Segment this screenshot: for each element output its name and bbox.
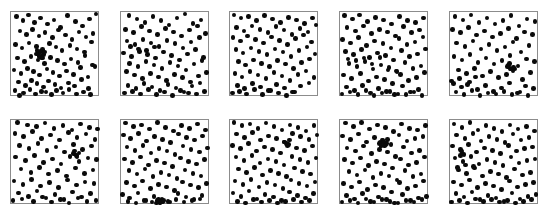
- data-point: [132, 73, 137, 78]
- scatter-panel-1[interactable]: [120, 11, 209, 96]
- data-point: [288, 123, 293, 128]
- data-point: [296, 125, 301, 130]
- data-point: [91, 168, 96, 173]
- data-point: [401, 24, 406, 29]
- data-point: [70, 37, 75, 42]
- data-point: [291, 197, 296, 202]
- data-point: [479, 47, 484, 52]
- data-point: [314, 23, 319, 28]
- data-point: [231, 191, 236, 196]
- data-point: [507, 61, 512, 66]
- data-point: [52, 126, 57, 131]
- data-point: [27, 41, 32, 46]
- data-point: [420, 93, 425, 98]
- data-point: [48, 55, 53, 60]
- data-point: [154, 92, 159, 97]
- data-point: [51, 70, 56, 75]
- data-point: [357, 13, 362, 18]
- data-point: [398, 72, 403, 77]
- data-point: [449, 200, 454, 205]
- data-point: [31, 69, 36, 74]
- data-point: [461, 18, 466, 23]
- data-point: [517, 161, 522, 166]
- data-point: [184, 195, 189, 200]
- scatter-panel-3[interactable]: [339, 11, 428, 96]
- data-point: [488, 69, 493, 74]
- data-point: [470, 190, 475, 195]
- data-point: [64, 69, 69, 74]
- scatter-panel-4[interactable]: [449, 11, 538, 96]
- data-point: [62, 150, 67, 155]
- data-point: [310, 16, 315, 21]
- data-point: [151, 14, 156, 19]
- data-point: [146, 163, 151, 168]
- data-point: [55, 58, 60, 63]
- data-point: [204, 70, 209, 75]
- data-point: [421, 179, 426, 184]
- scatter-panel-8[interactable]: [339, 119, 428, 204]
- data-point: [53, 192, 58, 197]
- data-point: [464, 171, 469, 176]
- data-point: [35, 189, 40, 194]
- data-point: [385, 30, 390, 35]
- data-point: [375, 123, 380, 128]
- data-point: [195, 122, 200, 127]
- data-point: [315, 133, 320, 138]
- data-point: [14, 14, 19, 19]
- data-point: [171, 129, 176, 134]
- data-point: [171, 30, 176, 35]
- data-point: [472, 66, 477, 71]
- data-point: [351, 124, 356, 129]
- data-point: [471, 164, 476, 169]
- data-point: [380, 91, 385, 96]
- data-point: [269, 35, 274, 40]
- data-point: [48, 133, 53, 138]
- scatter-panel-2[interactable]: [229, 11, 318, 96]
- data-point: [59, 86, 64, 91]
- data-point: [505, 198, 510, 203]
- data-point: [133, 148, 138, 153]
- data-point: [506, 26, 511, 31]
- data-point: [273, 183, 278, 188]
- data-point: [511, 65, 516, 70]
- data-point: [143, 167, 148, 172]
- data-point: [388, 89, 393, 94]
- data-point: [31, 199, 36, 204]
- data-point: [19, 71, 24, 76]
- data-point: [74, 183, 79, 188]
- data-point: [21, 91, 26, 96]
- data-point: [377, 147, 382, 152]
- data-point: [463, 163, 468, 168]
- scatter-panel-5[interactable]: [10, 119, 99, 204]
- data-point: [249, 177, 254, 182]
- scatter-panel-0[interactable]: [10, 11, 99, 96]
- data-point: [529, 197, 534, 202]
- scatter-panel-9[interactable]: [449, 119, 538, 204]
- data-point: [511, 40, 516, 45]
- data-point: [81, 90, 86, 95]
- scatter-panel-6[interactable]: [120, 119, 209, 204]
- data-point: [453, 156, 458, 161]
- data-point: [45, 148, 50, 153]
- data-point: [49, 92, 54, 97]
- data-point: [359, 47, 364, 52]
- data-point: [276, 91, 281, 96]
- data-point: [161, 50, 166, 55]
- data-point: [244, 92, 249, 97]
- data-point: [409, 30, 414, 35]
- data-point: [136, 191, 141, 196]
- data-point: [194, 92, 199, 97]
- data-point: [56, 185, 61, 190]
- data-point: [372, 135, 377, 140]
- data-point: [230, 143, 235, 148]
- data-point: [283, 62, 288, 67]
- data-point: [382, 162, 387, 167]
- data-point: [508, 53, 513, 58]
- data-point: [79, 77, 84, 82]
- data-point: [47, 41, 52, 46]
- data-point: [189, 40, 194, 45]
- data-point: [155, 120, 160, 125]
- data-point: [365, 187, 370, 192]
- data-point: [469, 154, 474, 159]
- scatter-panel-7[interactable]: [229, 119, 318, 204]
